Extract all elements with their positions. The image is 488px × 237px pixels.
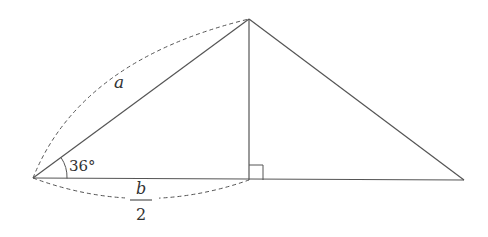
label-a: a [114, 72, 124, 92]
label-angle: 36° [69, 157, 96, 175]
side-left-top [33, 19, 249, 178]
side-top-right [249, 19, 464, 180]
right-angle-mark [249, 165, 263, 180]
triangle-diagram: a 36° b 2 [0, 0, 488, 237]
angle-arc [61, 158, 67, 179]
label-2: 2 [136, 205, 146, 224]
label-b: b [136, 179, 146, 198]
